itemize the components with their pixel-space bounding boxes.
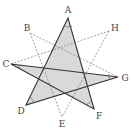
label-H: H xyxy=(111,23,119,33)
label-G: G xyxy=(121,73,128,83)
diagram-canvas: A B C D E F G H xyxy=(0,0,132,131)
label-D: D xyxy=(17,106,24,116)
label-E: E xyxy=(59,119,66,129)
label-B: B xyxy=(24,23,31,33)
label-C: C xyxy=(3,59,10,69)
label-A: A xyxy=(64,5,72,15)
star-diagram: A B C D E F G H xyxy=(0,0,132,131)
label-F: F xyxy=(96,111,102,121)
